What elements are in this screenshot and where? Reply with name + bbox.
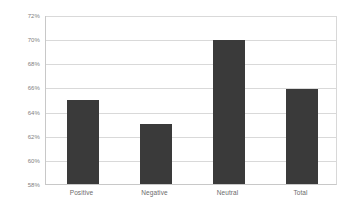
bar[interactable] [286,89,318,184]
y-axis-tick-label: 66% [10,85,40,91]
y-axis-tick-label: 62% [10,134,40,140]
y-axis-tick-label: 70% [10,37,40,43]
bar-chart: 58%60%62%64%66%68%70%72% PositiveNegativ… [0,0,354,216]
y-axis-tick-label: 72% [10,13,40,19]
x-axis-category-label: Total [261,190,341,197]
y-axis-tick-label: 64% [10,110,40,116]
plot-area [45,16,337,185]
x-axis-category-label: Positive [42,190,122,197]
x-axis-category-label: Negative [115,190,195,197]
bars [46,16,336,184]
bar[interactable] [140,124,172,184]
x-axis-category-label: Neutral [188,190,268,197]
y-axis-tick-label: 60% [10,158,40,164]
y-axis-tick-label: 58% [10,182,40,188]
y-axis-tick-label: 68% [10,61,40,67]
bar[interactable] [213,40,245,184]
bar[interactable] [67,100,99,185]
